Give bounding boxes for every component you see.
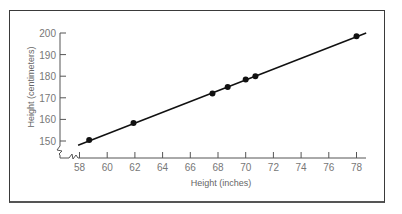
x-axis-break-icon [69, 154, 78, 159]
y-tick-label: 200 [39, 28, 56, 39]
y-tick-label: 180 [39, 71, 56, 82]
data-point [243, 76, 249, 82]
x-tick-label: 58 [74, 162, 86, 173]
x-tick-label: 72 [268, 162, 280, 173]
y-tick-label: 170 [39, 93, 56, 104]
y-tick-label: 160 [39, 114, 56, 125]
data-point [252, 73, 258, 79]
x-tick-label: 60 [102, 162, 114, 173]
data-point [209, 90, 215, 96]
y-tick-label: 190 [39, 50, 56, 61]
x-tick-label: 66 [185, 162, 197, 173]
x-tick-label: 64 [157, 162, 169, 173]
x-tick-label: 70 [240, 162, 252, 173]
x-tick-label: 78 [351, 162, 363, 173]
y-axis-break-icon [57, 146, 62, 158]
x-tick-label: 74 [296, 162, 308, 173]
data-point [354, 33, 360, 39]
y-tick-label: 150 [39, 136, 56, 147]
data-point [86, 137, 92, 143]
x-axis-title: Height (inches) [191, 178, 252, 188]
data-point [131, 120, 137, 126]
ticks: 1501601701801902005860626466687072747678 [39, 28, 362, 173]
scatter-chart: 1501601701801902005860626466687072747678… [0, 0, 402, 214]
x-tick-label: 62 [129, 162, 141, 173]
x-tick-label: 76 [323, 162, 335, 173]
x-tick-label: 68 [212, 162, 224, 173]
fit-line [78, 33, 366, 145]
data-point [225, 84, 231, 90]
y-axis-title: Height (centimeters) [26, 46, 36, 127]
